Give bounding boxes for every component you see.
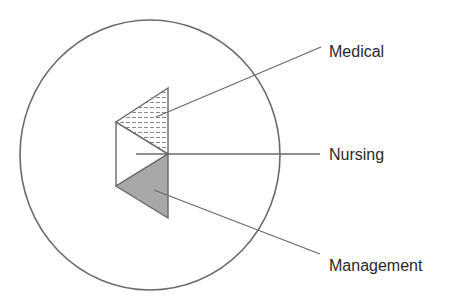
management-leader-line [154,190,320,254]
medical-label: Medical [329,43,384,60]
nursing-label: Nursing [329,146,384,163]
diagram-canvas: Medical Nursing Management [0,0,470,298]
management-label: Management [329,257,423,274]
medical-leader-line [156,47,321,117]
